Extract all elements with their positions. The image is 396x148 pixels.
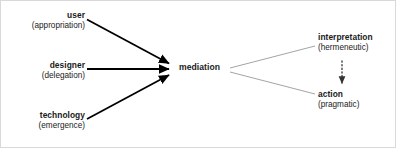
node-mediation: mediation [179,62,220,72]
node-user-subtitle: (appropriation) [32,21,85,31]
node-action: action (pragmatic) [318,90,359,110]
edge-technology-to-mediation [87,75,169,119]
node-designer-title: designer [42,61,85,71]
diagram-canvas: user (appropriation) designer (delegatio… [0,0,396,148]
node-interpretation-title: interpretation [318,33,373,43]
node-technology-title: technology [39,111,85,121]
node-interpretation: interpretation (hermeneutic) [318,33,373,53]
node-technology-subtitle: (emergence) [39,121,85,131]
node-action-subtitle: (pragmatic) [318,100,359,110]
edge-user-to-mediation [87,20,169,64]
node-interpretation-subtitle: (hermeneutic) [318,43,373,53]
node-mediation-title: mediation [179,62,220,72]
node-designer: designer (delegation) [42,61,85,81]
edge-mediation-to-action [230,72,315,94]
edge-mediation-to-interpretation [230,46,315,68]
node-technology: technology (emergence) [39,111,85,131]
node-user: user (appropriation) [32,11,85,31]
node-designer-subtitle: (delegation) [42,71,85,81]
node-user-title: user [32,11,85,21]
node-action-title: action [318,90,359,100]
